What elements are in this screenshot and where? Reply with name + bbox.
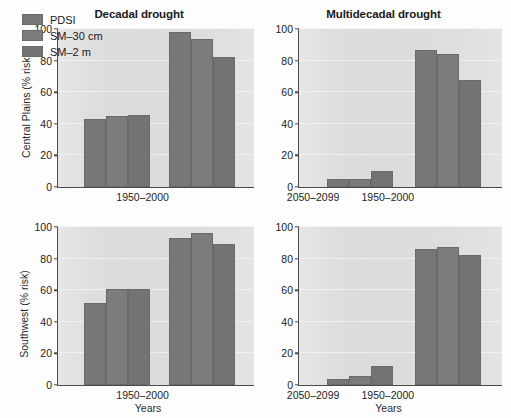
y-axis-tick-label: 60 [40, 86, 58, 98]
bar [191, 39, 213, 187]
bar [213, 57, 235, 187]
panel-central-plains-multidecadal: Multidecadal drought 020406080100 1950–2… [256, 2, 511, 209]
y-axis-tick-label: 60 [281, 284, 299, 296]
plot-area: 020406080100 1950–20002050–2099 [57, 227, 254, 386]
x-axis-label: Years [256, 402, 511, 414]
x-axis-tick-label: 1950–2000 [116, 191, 169, 203]
bar [327, 379, 349, 385]
y-axis-tick-label: 20 [40, 347, 58, 359]
legend: PDSISM–30 cmSM–2 m [22, 12, 103, 60]
y-axis-tick-label: 40 [281, 118, 299, 130]
bar [169, 32, 191, 187]
x-axis-tick-label: 1950–2000 [362, 191, 415, 203]
bar [349, 376, 371, 385]
bar [106, 289, 128, 385]
bar-group: 2050–2099 [415, 29, 481, 187]
bar [437, 247, 459, 385]
y-axis-tick-label: 40 [40, 316, 58, 328]
y-axis-tick-label: 20 [281, 347, 299, 359]
bar [459, 80, 481, 187]
y-axis-tick-label: 0 [287, 181, 299, 193]
bar [349, 179, 371, 187]
bar-group: 2050–2099 [415, 227, 481, 385]
bar [437, 54, 459, 188]
x-axis-label: Years [0, 402, 256, 414]
bar [128, 289, 150, 385]
legend-item: PDSI [22, 12, 103, 27]
y-axis-tick-label: 60 [281, 86, 299, 98]
bar [106, 116, 128, 187]
bar [459, 255, 481, 385]
y-axis-label: Southwest (% risk) [18, 270, 30, 358]
legend-swatch-icon [22, 46, 43, 57]
y-axis-label: Central Plains (% risk) [20, 54, 32, 158]
legend-label: SM–2 m [50, 46, 91, 58]
bar [84, 119, 106, 187]
panel-southwest-decadal: Decadal drought Southwest (% risk) 02040… [0, 209, 256, 418]
x-axis-tick-label: 1950–2000 [116, 389, 169, 401]
bar [415, 50, 437, 187]
bar [128, 115, 150, 187]
bar-group: 2050–2099 [169, 227, 235, 385]
legend-label: PDSI [50, 14, 76, 26]
y-axis-tick-label: 60 [40, 284, 58, 296]
bar [327, 179, 349, 187]
y-axis-tick-label: 40 [281, 316, 299, 328]
legend-item: SM–2 m [22, 44, 103, 59]
panel-southwest-multidecadal: Multidecadal drought 020406080100 1950–2… [256, 209, 511, 418]
y-axis-tick-label: 0 [287, 379, 299, 391]
y-axis-tick-label: 100 [275, 221, 299, 233]
bar [213, 244, 235, 385]
y-axis-tick-label: 100 [275, 23, 299, 35]
legend-swatch-icon [22, 30, 43, 41]
panel-title: Multidecadal drought [256, 8, 511, 20]
y-axis-tick-label: 20 [281, 149, 299, 161]
bar-group: 1950–2000 [327, 29, 393, 187]
bar [169, 238, 191, 385]
bar [84, 303, 106, 385]
bar [371, 366, 393, 385]
bar-group: 1950–2000 [84, 227, 150, 385]
y-axis-tick-label: 100 [34, 221, 58, 233]
bar [371, 171, 393, 187]
y-axis-tick-label: 80 [40, 253, 58, 265]
legend-label: SM–30 cm [50, 30, 103, 42]
y-axis-tick-label: 0 [46, 379, 58, 391]
y-axis-tick-label: 0 [46, 181, 58, 193]
figure: Decadal drought Central Plains (% risk) … [0, 0, 511, 418]
panel-central-plains-decadal: Decadal drought Central Plains (% risk) … [0, 2, 256, 209]
y-axis-tick-label: 80 [281, 55, 299, 67]
bar [415, 249, 437, 385]
y-axis-tick-label: 80 [281, 253, 299, 265]
plot-area: 020406080100 1950–20002050–2099 [298, 227, 502, 386]
bar-group: 1950–2000 [327, 227, 393, 385]
y-axis-tick-label: 20 [40, 149, 58, 161]
bar-group: 2050–2099 [169, 29, 235, 187]
bar [191, 233, 213, 385]
plot-area: 020406080100 1950–20002050–2099 [298, 29, 502, 188]
x-axis-tick-label: 1950–2000 [362, 389, 415, 401]
y-axis-tick-label: 40 [40, 118, 58, 130]
legend-item: SM–30 cm [22, 28, 103, 43]
legend-swatch-icon [22, 14, 43, 25]
